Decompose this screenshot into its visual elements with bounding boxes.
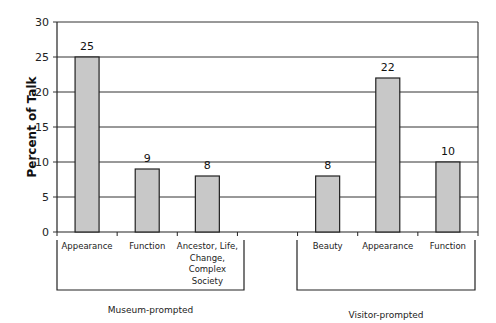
- x-category-label: Society: [192, 276, 223, 286]
- x-category-label: Change,: [190, 253, 225, 263]
- x-category-label: Complex: [189, 264, 226, 274]
- x-axis-category-labels: AppearanceFunctionAncestor, Life,Change,…: [62, 241, 466, 286]
- y-axis-label: Percent of Talk: [25, 75, 39, 177]
- x-category-label: Function: [430, 241, 466, 251]
- x-category-label: Ancestor, Life,: [177, 241, 238, 251]
- x-category-label: Beauty: [313, 241, 343, 251]
- data-label: 8: [324, 159, 331, 172]
- data-label: 22: [381, 61, 395, 74]
- data-label: 10: [441, 145, 455, 158]
- group-label: Museum-prompted: [108, 305, 193, 315]
- x-category-label: Function: [129, 241, 165, 251]
- bar: [135, 169, 159, 232]
- bar: [195, 176, 219, 232]
- group-label: Visitor-prompted: [348, 310, 423, 320]
- y-tick-label: 0: [42, 226, 49, 239]
- bar-chart: 051015202530 259882210 AppearanceFunctio…: [0, 0, 496, 323]
- group-brackets: Museum-promptedVisitor-prompted: [57, 240, 475, 320]
- bars: 259882210: [75, 40, 460, 232]
- bar: [75, 57, 99, 232]
- bar: [436, 162, 460, 232]
- data-label: 25: [80, 40, 94, 53]
- y-tick-label: 25: [35, 51, 49, 64]
- x-category-label: Appearance: [362, 241, 413, 251]
- gridlines: [57, 22, 478, 236]
- y-tick-label: 5: [42, 191, 49, 204]
- bar: [376, 78, 400, 232]
- x-category-label: Appearance: [62, 241, 113, 251]
- data-label: 8: [204, 159, 211, 172]
- data-label: 9: [144, 152, 151, 165]
- bar: [316, 176, 340, 232]
- y-tick-label: 30: [35, 16, 49, 29]
